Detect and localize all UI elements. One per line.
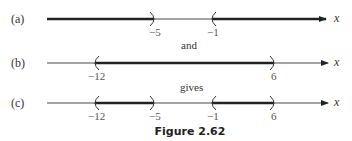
number-line-a: (a) −5 −1 x — [11, 11, 340, 38]
number-line-b: (b) −12 6 x — [11, 55, 340, 82]
tick-b-6: 6 — [271, 70, 277, 82]
tick-a-neg1: −1 — [207, 26, 219, 38]
row-label-b: (b) — [11, 56, 25, 70]
connector-and: and — [181, 39, 197, 51]
tick-b-neg12: −12 — [88, 70, 105, 82]
tick-c-6: 6 — [271, 110, 277, 122]
axis-var-b: x — [333, 55, 340, 69]
figure-caption: Figure 2.62 — [0, 125, 352, 138]
tick-c-neg12: −12 — [88, 110, 105, 122]
row-label-c: (c) — [11, 96, 24, 110]
number-line-c: (c) −12 −5 −1 6 x — [11, 95, 340, 122]
number-line-diagram: (a) −5 −1 x and (b) −12 6 x gives (c) −1… — [0, 0, 352, 141]
tick-c-neg1: −1 — [207, 110, 219, 122]
axis-var-a: x — [333, 11, 340, 25]
connector-gives: gives — [180, 81, 203, 93]
tick-c-neg5: −5 — [149, 110, 161, 122]
tick-a-neg5: −5 — [149, 26, 161, 38]
row-label-a: (a) — [11, 12, 24, 26]
axis-var-c: x — [333, 95, 340, 109]
